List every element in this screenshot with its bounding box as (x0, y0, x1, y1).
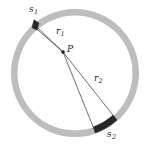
label-s2: s2 (107, 130, 116, 139)
label-r1: r1 (56, 27, 64, 36)
annulus-ring (0, 0, 152, 149)
point-p-dot (61, 50, 65, 54)
label-r2: r2 (94, 74, 102, 83)
annulus-geometry-figure: s1 s2 r1 r2 P (0, 0, 152, 149)
label-point-p: P (67, 45, 73, 54)
label-s1: s1 (29, 5, 38, 14)
figure-canvas (0, 0, 152, 149)
